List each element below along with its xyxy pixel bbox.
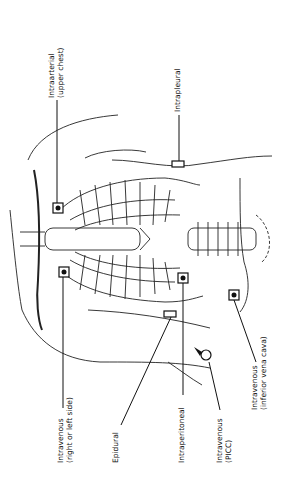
label-intraarterial: Intraarterial (upper chest) (48, 47, 65, 98)
label-intravenous-side: Intravenous (right or left side) (57, 397, 74, 463)
label-line: Epidural (112, 432, 121, 463)
label-intraperitoneal: Intraperitoneal (178, 407, 187, 463)
label-intravenous-picc: Intravenous (PICC) (216, 418, 233, 463)
label-intrapleural: Intrapleural (174, 68, 183, 112)
label-line: Intrapleural (174, 68, 183, 112)
label-epidural: Epidural (112, 432, 121, 463)
label-line: (right or left side) (66, 397, 75, 463)
catheter-sites-diagram: Intraarterial (upper chest) Intrapleural… (0, 0, 292, 479)
label-line: (upper chest) (57, 47, 66, 98)
label-line: (inferior vena cava) (260, 336, 269, 410)
label-intravenous-ivc: Intravenous (inferior vena cava) (251, 336, 268, 410)
label-line: Intraperitoneal (178, 407, 187, 463)
torso-skeleton-illustration (0, 0, 292, 479)
label-line: (PICC) (225, 418, 234, 463)
